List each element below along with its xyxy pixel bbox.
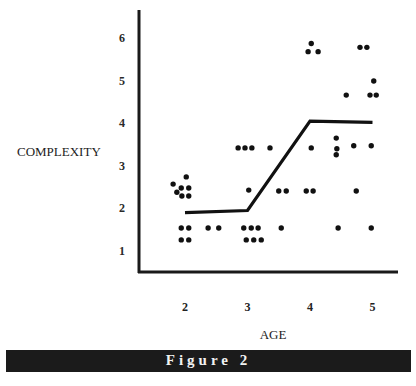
y-tick-label: 5 bbox=[119, 74, 125, 88]
data-point bbox=[241, 225, 246, 230]
scatter-chart: 123456 2345 COMPLEXITY AGE bbox=[0, 0, 416, 386]
data-point bbox=[246, 187, 251, 192]
data-point bbox=[371, 78, 376, 83]
data-point bbox=[184, 174, 189, 179]
data-point bbox=[259, 237, 264, 242]
data-point bbox=[305, 49, 310, 54]
figure-caption-banner: Figure 2 bbox=[6, 350, 411, 372]
data-point bbox=[174, 190, 179, 195]
data-point bbox=[242, 145, 247, 150]
x-tick-label: 2 bbox=[182, 300, 188, 314]
data-point bbox=[354, 188, 359, 193]
data-point bbox=[235, 145, 240, 150]
data-point bbox=[179, 237, 184, 242]
data-point bbox=[186, 225, 191, 230]
x-axis-ticks: 2345 bbox=[182, 300, 376, 314]
data-point bbox=[357, 45, 362, 50]
x-tick-label: 4 bbox=[307, 300, 313, 314]
data-point bbox=[249, 145, 254, 150]
data-point bbox=[309, 145, 314, 150]
data-point bbox=[351, 143, 356, 148]
y-axis-label: COMPLEXITY bbox=[17, 144, 101, 159]
data-point bbox=[179, 185, 184, 190]
data-point bbox=[255, 225, 260, 230]
data-point bbox=[249, 225, 254, 230]
data-point bbox=[334, 152, 339, 157]
data-point bbox=[334, 146, 339, 151]
y-tick-label: 2 bbox=[119, 201, 125, 215]
x-tick-label: 5 bbox=[370, 300, 376, 314]
data-point bbox=[304, 188, 309, 193]
data-point bbox=[170, 181, 175, 186]
data-point bbox=[364, 45, 369, 50]
y-tick-label: 3 bbox=[119, 159, 125, 173]
data-point bbox=[369, 143, 374, 148]
data-point bbox=[205, 225, 210, 230]
data-point bbox=[315, 49, 320, 54]
trend-line bbox=[185, 121, 373, 213]
data-point bbox=[179, 225, 184, 230]
data-point bbox=[267, 145, 272, 150]
data-point bbox=[179, 193, 184, 198]
y-axis-ticks: 123456 bbox=[119, 31, 125, 258]
data-point bbox=[369, 225, 374, 230]
x-axis-label: AGE bbox=[260, 327, 287, 342]
data-point bbox=[309, 41, 314, 46]
data-point bbox=[251, 237, 256, 242]
data-point bbox=[216, 225, 221, 230]
data-point bbox=[374, 92, 379, 97]
y-tick-label: 6 bbox=[119, 31, 125, 45]
data-point bbox=[334, 135, 339, 140]
data-point bbox=[367, 92, 372, 97]
y-tick-label: 1 bbox=[119, 244, 125, 258]
data-point bbox=[284, 188, 289, 193]
data-point bbox=[279, 225, 284, 230]
data-point bbox=[186, 237, 191, 242]
data-point bbox=[310, 188, 315, 193]
data-point bbox=[276, 188, 281, 193]
data-point bbox=[335, 225, 340, 230]
x-tick-label: 3 bbox=[245, 300, 251, 314]
y-tick-label: 4 bbox=[119, 116, 125, 130]
figure-caption: Figure 2 bbox=[6, 352, 411, 369]
data-point bbox=[186, 193, 191, 198]
data-point bbox=[344, 92, 349, 97]
data-point bbox=[244, 237, 249, 242]
data-point bbox=[186, 185, 191, 190]
